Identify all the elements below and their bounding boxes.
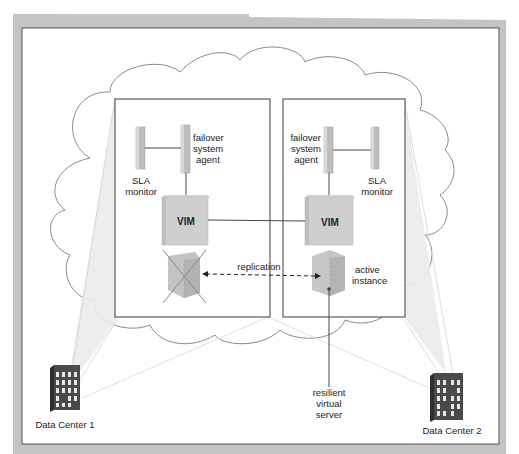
right-failover-agent[interactable]	[324, 127, 333, 173]
left-agent-label-2: system	[193, 143, 223, 154]
left-sla-label-2: monitor	[125, 186, 157, 197]
right-sla-monitor[interactable]	[371, 127, 379, 169]
data-center-1-building[interactable]	[50, 365, 80, 412]
right-agent-label-1: failover	[290, 132, 321, 143]
right-sla-label-1: SLA	[368, 175, 387, 186]
right-agent-label-3: agent	[294, 154, 318, 165]
data-center-2-label: Data Center 2	[422, 425, 481, 436]
left-agent-label-1: failover	[193, 132, 224, 143]
diagram-canvas: SLA monitor failover system agent failov…	[0, 0, 519, 454]
data-center-2-building[interactable]	[430, 373, 463, 422]
active-instance-label-2: instance	[352, 275, 387, 286]
right-sla-label-2: monitor	[361, 186, 393, 197]
left-vim-label: VIM	[177, 216, 195, 227]
active-instance-label-1: active	[355, 264, 380, 275]
left-sla-monitor[interactable]	[136, 127, 145, 169]
right-agent-label-2: system	[291, 143, 321, 154]
right-vim-label: VIM	[321, 217, 339, 228]
resilient-label-1: resilient	[313, 387, 346, 398]
failed-server[interactable]	[163, 250, 206, 303]
left-sla-label-1: SLA	[132, 175, 151, 186]
left-failover-agent[interactable]	[181, 125, 190, 173]
replication-label: replication	[237, 261, 280, 272]
left-agent-label-3: agent	[196, 154, 220, 165]
resilient-label-3: server	[316, 409, 342, 420]
data-center-1-label: Data Center 1	[35, 419, 94, 430]
resilient-label-2: virtual	[316, 398, 341, 409]
